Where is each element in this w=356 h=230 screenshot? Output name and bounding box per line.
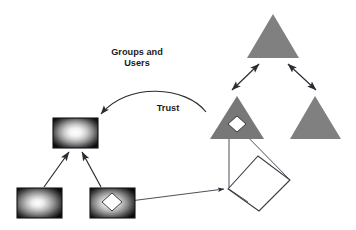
diamond-outline-shape bbox=[228, 156, 290, 211]
label-groups-line1: Groups and bbox=[111, 47, 163, 57]
edge-child-left-to-parent bbox=[44, 152, 69, 187]
edge-diamond-stub bbox=[229, 189, 248, 202]
gradient-rect-child-left bbox=[17, 188, 62, 218]
edge-trust-arc bbox=[101, 91, 206, 114]
triangle-child-right bbox=[290, 96, 341, 139]
diagram-canvas: Groups and Users Trust bbox=[0, 0, 356, 230]
label-trust: Trust bbox=[157, 103, 179, 113]
edge-rect-to-diamond bbox=[130, 189, 224, 201]
triangle-root bbox=[247, 14, 299, 58]
edge-child-right-to-parent bbox=[82, 152, 101, 187]
edge-root-to-left-triangle bbox=[232, 64, 259, 90]
label-groups-line2: Users bbox=[124, 58, 150, 68]
gradient-rect-parent bbox=[53, 118, 98, 148]
diagram-svg: Groups and Users Trust bbox=[0, 0, 356, 230]
edge-root-to-right-triangle bbox=[288, 64, 316, 90]
